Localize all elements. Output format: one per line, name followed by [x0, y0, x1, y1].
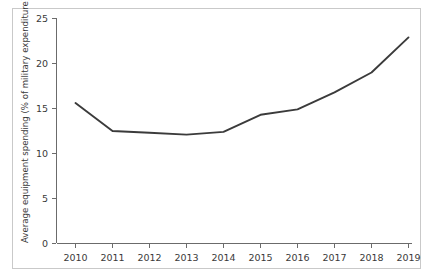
x-tick-label-2016: 2016 — [285, 252, 309, 263]
x-tick-label-2010: 2010 — [63, 252, 87, 263]
data-series-line — [76, 37, 409, 134]
y-tick-label-10: 10 — [36, 148, 48, 159]
y-tick-label-5: 5 — [42, 193, 48, 204]
x-tick-label-2018: 2018 — [359, 252, 383, 263]
y-tick-label-15: 15 — [36, 103, 48, 114]
y-axis-title: Average equipment spending (% of militar… — [20, 0, 30, 243]
y-tick-label-20: 20 — [36, 58, 48, 69]
x-tick-label-2019: 2019 — [396, 252, 420, 263]
x-tick-label-2012: 2012 — [137, 252, 161, 263]
x-tick-label-2011: 2011 — [100, 252, 124, 263]
y-tick-label-0: 0 — [42, 238, 48, 249]
line-chart-plot: Average equipment spending (% of militar… — [0, 0, 435, 280]
x-tick-label-2015: 2015 — [248, 252, 272, 263]
y-tick-label-25: 25 — [36, 13, 48, 24]
chart-figure: Average equipment spending (% of militar… — [0, 0, 435, 280]
x-tick-label-2017: 2017 — [322, 252, 346, 263]
x-tick-label-2013: 2013 — [174, 252, 198, 263]
x-tick-label-2014: 2014 — [211, 252, 235, 263]
